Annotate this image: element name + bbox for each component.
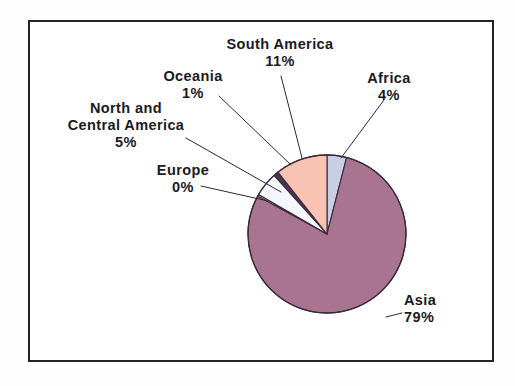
leader-line-asia (386, 313, 402, 317)
pie-label-africa: Africa 4% (344, 70, 434, 104)
pie-label-north-and-central-america: North and Central America 5% (36, 100, 216, 151)
leader-line-south-america (281, 76, 302, 158)
pie-label-oceania: Oceania 1% (144, 68, 242, 102)
pie-slice-group (248, 155, 406, 313)
pie-label-north-and-central-america-value: 5% (36, 134, 216, 151)
pie-label-europe: Europe 0% (128, 162, 238, 196)
pie-label-south-america: South America 11% (205, 36, 355, 70)
pie-label-south-america-name: South America (205, 36, 355, 53)
pie-label-north-and-central-america-name-line1: North and (36, 100, 216, 117)
leader-line-oceania (219, 96, 291, 165)
pie-label-africa-name: Africa (344, 70, 434, 87)
pie-label-europe-name: Europe (128, 162, 238, 179)
pie-chart-figure: South America 11% Oceania 1% Africa 4% N… (0, 0, 515, 386)
pie-label-oceania-name: Oceania (144, 68, 242, 85)
leader-line-africa (341, 100, 384, 158)
pie-label-north-and-central-america-name-line2: Central America (36, 117, 216, 134)
pie-label-europe-value: 0% (128, 179, 238, 196)
pie-label-asia-value: 79% (404, 309, 490, 326)
pie-label-asia: Asia 79% (404, 292, 490, 326)
pie-label-asia-name: Asia (404, 292, 490, 309)
pie-label-africa-value: 4% (344, 87, 434, 104)
